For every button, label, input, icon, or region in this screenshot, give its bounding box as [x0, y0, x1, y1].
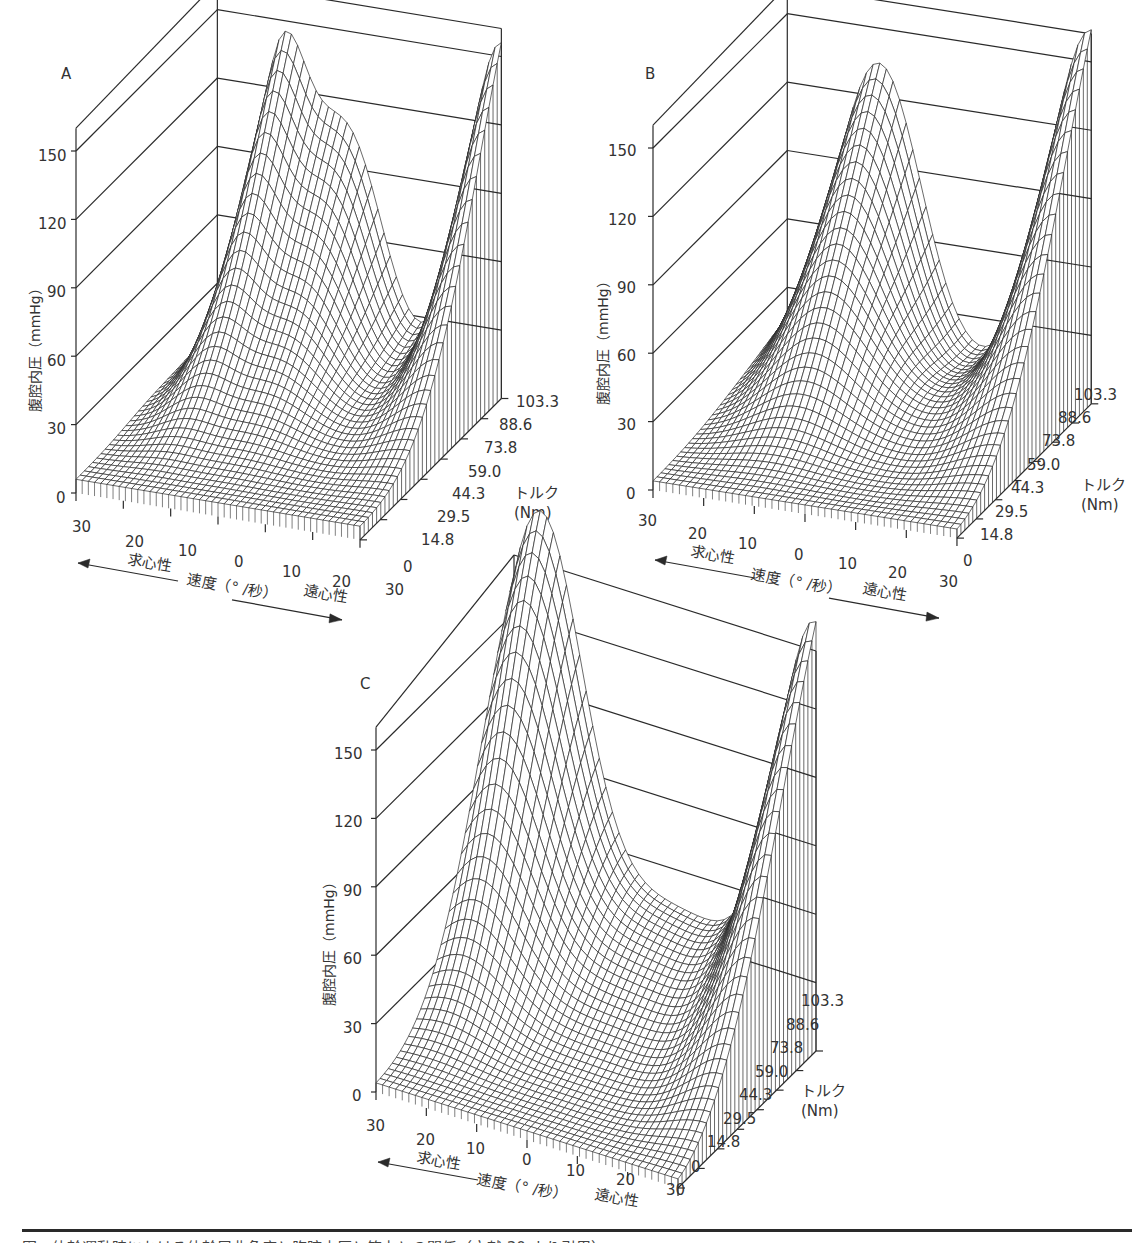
z-tick: 150 — [608, 144, 637, 159]
surface-plot-b — [570, 0, 1141, 630]
y-tick: 88.6 — [1058, 411, 1091, 426]
panel-c: C 腹腔内圧（mmHg） 0 30 60 90 120 150 30 20 10… — [296, 598, 856, 1228]
x-tick: 10 — [838, 557, 857, 572]
torque-unit-label: (Nm) — [801, 1104, 839, 1119]
y-tick: 73.8 — [770, 1041, 803, 1056]
y-tick: 29.5 — [437, 510, 470, 525]
panel-b: B 腹腔内圧（mmHg） 0 30 60 90 120 150 30 20 10… — [570, 0, 1141, 630]
y-tick: 103.3 — [516, 395, 559, 410]
x-tick: 20 — [888, 566, 907, 581]
caption-rule — [22, 1229, 1132, 1232]
torque-label: トルク — [1081, 478, 1126, 493]
y-tick: 14.8 — [707, 1135, 740, 1150]
figure-caption: 図 体幹運動時における体幹屈曲角度と腹腔内圧と筋力との関係（文献 30 より引用… — [22, 1236, 606, 1243]
y-tick: 88.6 — [499, 418, 532, 433]
x-tick: 10 — [566, 1164, 585, 1179]
y-tick: 0 — [403, 560, 413, 575]
x-tick: 30 — [638, 514, 657, 529]
x-tick: 10 — [466, 1142, 485, 1157]
x-tick: 20 — [125, 535, 144, 550]
panel-letter: C — [360, 677, 370, 692]
x-tick: 30 — [72, 520, 91, 535]
z-tick: 90 — [617, 281, 636, 296]
z-tick: 150 — [334, 747, 363, 762]
y-tick: 59.0 — [755, 1065, 788, 1080]
z-tick: 60 — [343, 952, 362, 967]
x-tick: 20 — [416, 1133, 435, 1148]
y-tick: 44.3 — [739, 1088, 772, 1103]
y-tick: 0 — [691, 1160, 701, 1175]
x-tick: 0 — [234, 555, 244, 570]
x-tick: 10 — [178, 544, 197, 559]
panel-a: A 腹腔内圧（mmHg） 0 30 60 90 120 150 30 20 10… — [0, 0, 580, 630]
torque-unit-label: (Nm) — [1081, 498, 1119, 513]
z-tick: 0 — [56, 491, 66, 506]
torque-label: トルク — [801, 1084, 846, 1099]
z-tick: 120 — [334, 815, 363, 830]
y-tick: 103.3 — [801, 994, 844, 1009]
y-tick: 73.8 — [1042, 434, 1075, 449]
x-tick: 30 — [385, 583, 404, 598]
x-tick: 20 — [616, 1173, 635, 1188]
x-tick: 30 — [939, 575, 958, 590]
z-tick: 60 — [617, 349, 636, 364]
x-tick: 30 — [666, 1183, 685, 1198]
y-tick: 14.8 — [980, 528, 1013, 543]
y-tick: 29.5 — [723, 1112, 756, 1127]
x-tick: 0 — [522, 1153, 532, 1168]
z-tick: 0 — [352, 1089, 362, 1104]
z-tick: 150 — [38, 149, 67, 164]
y-tick: 14.8 — [421, 533, 454, 548]
y-tick: 88.6 — [786, 1018, 819, 1033]
y-tick: 0 — [963, 554, 973, 569]
z-tick: 90 — [343, 884, 362, 899]
panel-letter: B — [645, 67, 655, 82]
z-tick: 30 — [47, 422, 66, 437]
x-tick: 0 — [794, 548, 804, 563]
z-axis-label: 腹腔内圧（mmHg） — [592, 274, 612, 405]
torque-label: トルク — [514, 486, 559, 501]
y-tick: 59.0 — [468, 465, 501, 480]
x-tick: 10 — [282, 565, 301, 580]
y-tick: 73.8 — [484, 441, 517, 456]
z-tick: 90 — [47, 285, 66, 300]
z-tick: 30 — [617, 418, 636, 433]
y-tick: 44.3 — [452, 487, 485, 502]
z-axis-label: 腹腔内圧（mmHg） — [24, 281, 44, 412]
y-tick: 44.3 — [1011, 481, 1044, 496]
z-tick: 0 — [626, 487, 636, 502]
y-tick: 103.3 — [1074, 388, 1117, 403]
x-tick: 10 — [738, 537, 757, 552]
y-tick: 29.5 — [995, 505, 1028, 520]
panel-letter: A — [61, 67, 71, 82]
z-tick: 120 — [608, 213, 637, 228]
z-tick: 60 — [47, 354, 66, 369]
z-axis-label: 腹腔内圧（mmHg） — [318, 875, 338, 1006]
x-tick: 20 — [688, 527, 707, 542]
z-tick: 30 — [343, 1021, 362, 1036]
y-tick: 59.0 — [1027, 458, 1060, 473]
z-tick: 120 — [38, 217, 67, 232]
x-tick: 30 — [366, 1119, 385, 1134]
